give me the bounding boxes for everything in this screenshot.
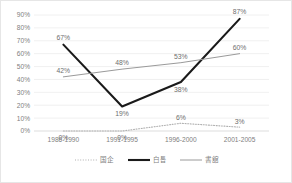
legend-item[interactable]: 白톱 [128,157,166,164]
line-chart-svg: 0%10%20%30%40%50%60%70%80%90% 1986-19901… [1,1,292,149]
x-axis-category-label: 1996-2000 [165,136,197,143]
thin-line-icon [180,157,202,163]
legend-item-label: 国企 [100,157,114,164]
data-point-label: 60% [233,44,247,51]
y-axis-tick-label: 40% [17,76,30,83]
legend-item-label: 白톱 [153,157,166,164]
series-lines [63,19,239,131]
chart-card: 0%10%20%30%40%50%60%70%80%90% 1986-19901… [0,0,292,183]
data-point-label: 0% [117,134,127,141]
y-axis-tick-label: 0% [20,127,30,134]
series-line-solid-thin [63,54,239,77]
y-axis-tick-label: 20% [17,102,30,109]
legend-item[interactable]: 国企 [75,157,114,164]
y-axis-tick-label: 50% [17,63,30,70]
dotted-line-icon [75,157,97,163]
data-point-label: 38% [174,86,188,93]
y-axis-tick-label: 70% [17,37,30,44]
data-point-label: 48% [115,59,129,66]
data-point-label: 3% [235,118,245,125]
y-axis-tick-label: 60% [17,50,30,57]
plot-area: 0%10%20%30%40%50%60%70%80%90% 1986-19901… [1,1,292,149]
x-axis-category-label: 2001-2005 [224,136,256,143]
data-point-label: 6% [176,114,186,121]
legend-item-label: 書舘 [205,157,219,164]
data-point-label: 67% [57,34,71,41]
y-axis-tick-labels: 0%10%20%30%40%50%60%70%80%90% [17,11,30,134]
chart-legend: 国企白톱書舘 [1,151,292,169]
data-point-label: 53% [174,53,188,60]
y-axis-tick-label: 80% [17,24,30,31]
data-point-label: 0% [58,134,68,141]
data-point-label: 19% [115,110,129,117]
y-axis-tick-label: 90% [17,11,30,18]
series-line-solid-thick [63,19,239,107]
legend-item[interactable]: 書舘 [180,157,219,164]
data-point-label: 42% [57,67,71,74]
thick-line-icon [128,157,150,163]
y-axis-tick-label: 30% [17,89,30,96]
y-axis-tick-label: 10% [17,115,30,122]
series-line-dotted [63,123,239,131]
x-axis-category-labels: 1986-19901991-19951996-20002001-2005 [48,136,256,143]
data-point-label: 87% [233,8,247,15]
